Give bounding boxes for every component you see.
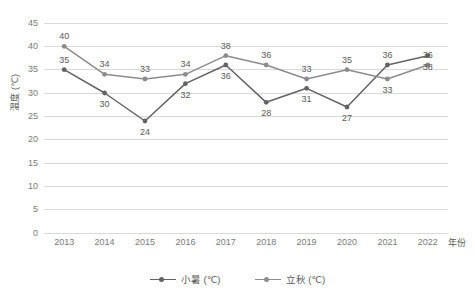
temperature-line-chart: 温度 (℃) 年份 051015202530354045 20132014201… <box>0 0 475 305</box>
data-point-0-6 <box>304 86 309 91</box>
legend-item-0[interactable]: 小暑 (℃) <box>150 272 221 286</box>
data-point-1-8 <box>385 77 390 82</box>
data-point-1-4 <box>223 53 228 58</box>
data-label-1-0: 40 <box>49 31 79 41</box>
data-point-0-5 <box>264 100 269 105</box>
data-label-0-5: 28 <box>251 108 281 118</box>
data-point-1-2 <box>143 77 148 82</box>
data-label-0-6: 31 <box>292 94 322 104</box>
data-label-0-2: 24 <box>130 127 160 137</box>
legend-label-1: 立秋 (℃) <box>286 272 326 286</box>
data-label-0-7: 27 <box>332 113 362 123</box>
data-point-0-8 <box>385 63 390 68</box>
legend-marker-icon-1 <box>255 274 281 284</box>
data-label-1-9: 36 <box>413 50 443 60</box>
data-label-0-1: 30 <box>90 99 120 109</box>
data-label-1-6: 33 <box>292 64 322 74</box>
data-label-1-2: 33 <box>130 64 160 74</box>
data-label-1-8: 33 <box>372 85 402 95</box>
data-point-0-3 <box>183 81 188 86</box>
data-label-0-0: 35 <box>49 55 79 65</box>
data-point-0-0 <box>62 67 67 72</box>
data-label-0-8: 36 <box>372 50 402 60</box>
data-point-1-7 <box>345 67 350 72</box>
data-point-1-3 <box>183 72 188 77</box>
chart-legend: 小暑 (℃)立秋 (℃) <box>0 272 475 286</box>
data-point-1-5 <box>264 63 269 68</box>
legend-label-0: 小暑 (℃) <box>181 272 221 286</box>
data-point-1-0 <box>62 44 67 49</box>
data-point-0-4 <box>223 63 228 68</box>
data-label-0-4: 36 <box>211 71 241 81</box>
data-label-0-3: 32 <box>170 90 200 100</box>
data-label-1-3: 34 <box>170 59 200 69</box>
data-label-1-7: 35 <box>332 55 362 65</box>
data-label-1-1: 34 <box>90 59 120 69</box>
data-point-1-1 <box>102 72 107 77</box>
data-label-1-5: 36 <box>251 50 281 60</box>
data-label-0-9: 38 <box>413 62 443 72</box>
data-point-0-1 <box>102 91 107 96</box>
data-point-0-2 <box>143 119 148 124</box>
data-point-1-6 <box>304 77 309 82</box>
data-label-1-4: 38 <box>211 41 241 51</box>
data-point-0-7 <box>345 105 350 110</box>
legend-item-1[interactable]: 立秋 (℃) <box>255 272 326 286</box>
legend-marker-icon-0 <box>150 274 176 284</box>
